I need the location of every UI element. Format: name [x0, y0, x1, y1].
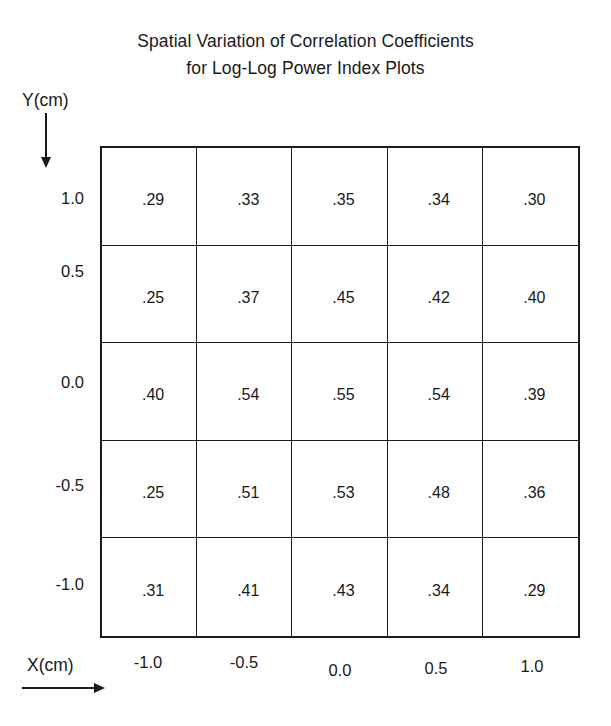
cell-value: .34 — [428, 582, 450, 600]
figure-title-line-1: Spatial Variation of Correlation Coeffic… — [0, 28, 611, 55]
correlation-coefficient-grid-figure: Spatial Variation of Correlation Coeffic… — [0, 0, 611, 726]
x-tick-label: -0.5 — [196, 653, 292, 672]
cell-value: .40 — [142, 386, 164, 404]
grid-cell: .35 — [292, 148, 387, 246]
grid-cell: .25 — [102, 246, 197, 344]
x-tick-label: 0.5 — [388, 659, 484, 678]
y-axis-title: Y(cm) — [22, 90, 69, 111]
grid-cell: .43 — [292, 538, 387, 636]
cell-value: .30 — [523, 191, 545, 209]
cell-value: .39 — [523, 386, 545, 404]
cell-value: .36 — [523, 484, 545, 502]
grid-cell: .34 — [388, 538, 483, 636]
cell-value: .54 — [237, 386, 259, 404]
grid-cell: .55 — [292, 343, 387, 441]
cell-value: .53 — [332, 484, 354, 502]
right-arrow-icon — [22, 687, 94, 689]
grid-cell: .48 — [388, 441, 483, 539]
y-tick-label: 0.0 — [14, 373, 84, 392]
grid-cell: .54 — [197, 343, 292, 441]
grid-cell: .30 — [483, 148, 578, 246]
grid-cell: .42 — [388, 246, 483, 344]
grid-cell: .40 — [483, 246, 578, 344]
grid-cell: .39 — [483, 343, 578, 441]
cell-value: .35 — [332, 191, 354, 209]
x-tick-label: 1.0 — [484, 657, 580, 676]
cell-value: .33 — [237, 191, 259, 209]
cell-value: .25 — [142, 484, 164, 502]
grid-cell: .36 — [483, 441, 578, 539]
cell-value: .37 — [237, 289, 259, 307]
cell-value: .55 — [332, 386, 354, 404]
cell-value: .31 — [142, 582, 164, 600]
y-tick-label: -1.0 — [14, 575, 84, 594]
cell-value: .40 — [523, 289, 545, 307]
figure-title-line-2: for Log-Log Power Index Plots — [0, 55, 611, 82]
y-tick-label: 0.5 — [14, 262, 84, 281]
grid-cell: .37 — [197, 246, 292, 344]
x-tick-label: 0.0 — [292, 661, 388, 680]
y-tick-label: 1.0 — [14, 189, 84, 208]
grid-cell: .25 — [102, 441, 197, 539]
cell-value: .48 — [428, 484, 450, 502]
x-axis-title: X(cm) — [27, 655, 74, 676]
cell-value: .43 — [332, 582, 354, 600]
grid-cell: .31 — [102, 538, 197, 636]
grid-cell: .29 — [483, 538, 578, 636]
grid-cell: .45 — [292, 246, 387, 344]
cell-value: .51 — [237, 484, 259, 502]
cell-value: .25 — [142, 289, 164, 307]
down-arrow-icon — [45, 113, 47, 159]
grid-cell: .53 — [292, 441, 387, 539]
x-tick-label: -1.0 — [100, 653, 196, 672]
cell-value: .54 — [428, 386, 450, 404]
cell-value: .45 — [332, 289, 354, 307]
cell-value: .29 — [523, 582, 545, 600]
grid-cell: .40 — [102, 343, 197, 441]
cell-value: .42 — [428, 289, 450, 307]
grid-cell: .33 — [197, 148, 292, 246]
y-tick-label: -0.5 — [14, 476, 84, 495]
cell-value: .34 — [428, 191, 450, 209]
figure-title: Spatial Variation of Correlation Coeffic… — [0, 28, 611, 82]
cell-value: .41 — [237, 582, 259, 600]
grid-cell: .29 — [102, 148, 197, 246]
data-grid: .29 .33 .35 .34 .30 .25 .37 .45 .42 .40 … — [100, 146, 580, 638]
grid-cell: .41 — [197, 538, 292, 636]
cell-value: .29 — [142, 191, 164, 209]
grid-cell: .34 — [388, 148, 483, 246]
grid-cell: .54 — [388, 343, 483, 441]
grid-cell: .51 — [197, 441, 292, 539]
